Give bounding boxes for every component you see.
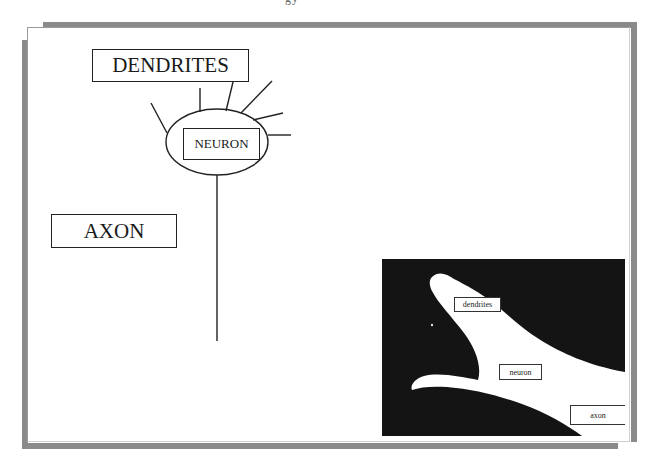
dendrites-label: DENDRITES bbox=[92, 49, 249, 82]
photo-dendrites-label: dendrites bbox=[454, 297, 501, 312]
photo-axon-label: axon bbox=[570, 405, 625, 425]
micrograph-speck bbox=[431, 324, 433, 326]
dendrite-line-3 bbox=[226, 82, 233, 111]
photo-neuron-label: neuron bbox=[499, 364, 542, 380]
neuron-micrograph: dendrites neuron axon bbox=[382, 259, 625, 436]
dendrite-line-4 bbox=[241, 81, 272, 113]
neuron-label: NEURON bbox=[183, 128, 260, 160]
axon-label: AXON bbox=[51, 214, 177, 248]
dendrite-line-5 bbox=[253, 113, 283, 120]
dendrite-line-1 bbox=[151, 103, 167, 133]
